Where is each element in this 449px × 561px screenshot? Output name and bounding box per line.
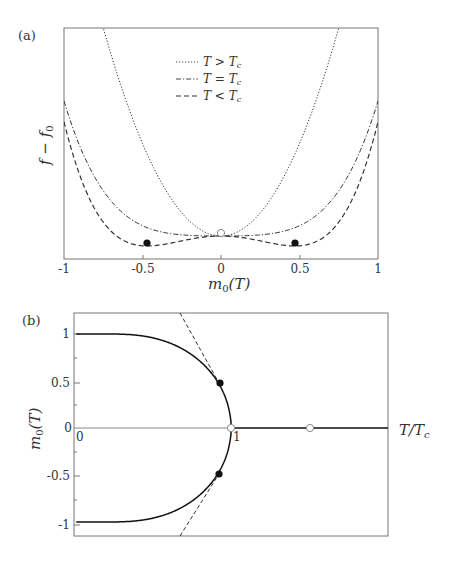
panel-a-legend: T > Tc T = Tc T < Tc: [176, 55, 242, 104]
panel-a-x-tick-labels: -1 -0.5 0 0.5 1: [58, 262, 382, 276]
figure: (a) -1 -0.5 0 0.5 1 m0(T) f − f0: [0, 0, 449, 561]
y-tick-label: 0.5: [51, 376, 70, 390]
x-tick-label: -1: [58, 262, 70, 276]
critical-point-marker: [227, 424, 234, 431]
x-tick-label-0: 0: [76, 430, 84, 444]
x-tick-label-1: 1: [233, 430, 241, 444]
tangent-line-upper: [180, 313, 219, 383]
x-tick-label: 0.5: [290, 262, 309, 276]
curve-t-below-tc: [64, 122, 378, 246]
panel-a: (a) -1 -0.5 0 0.5 1 m0(T) f − f0: [18, 0, 382, 294]
magnetization-curve-upper: [76, 334, 231, 428]
panel-b-x-label: T/Tc: [399, 421, 430, 440]
magnetization-curve-lower: [76, 428, 231, 522]
y-tick-label: 0: [64, 421, 72, 435]
y-tick-label: -1: [58, 518, 70, 532]
panel-a-tag: (a): [18, 28, 36, 43]
panel-a-x-label: m0(T): [208, 275, 250, 294]
y-tick-label: 1: [62, 327, 70, 341]
tangent-point-lower: [215, 470, 222, 477]
panel-b-tag: (b): [22, 313, 40, 328]
minimum-marker-left: [143, 239, 150, 246]
panel-a-y-label: f − f0: [36, 125, 55, 166]
legend-label-t-below-tc: T < Tc: [203, 89, 242, 104]
high-temp-marker: [306, 424, 313, 431]
origin-marker-open: [217, 229, 224, 236]
panel-a-x-ticks: [143, 255, 300, 259]
curve-t-above-tc: [64, 0, 378, 236]
x-tick-label: 0: [217, 262, 225, 276]
tangent-point-upper: [216, 379, 223, 386]
y-tick-label: -0.5: [47, 469, 70, 483]
curve-t-equals-tc: [64, 101, 378, 236]
minimum-marker-right: [291, 239, 298, 246]
x-tick-label: -0.5: [131, 262, 154, 276]
panel-b: (b) 1 0.5 0 -0.5 -1 0 1 m0(T) T/Tc: [22, 313, 430, 536]
x-tick-label: 1: [374, 262, 382, 276]
panel-b-y-label: m0(T): [26, 408, 45, 450]
legend-label-t-above-tc: T > Tc: [203, 55, 242, 70]
legend-label-t-equals-tc: T = Tc: [203, 72, 242, 87]
panel-b-y-tick-labels: 1 0.5 0 -0.5 -1: [47, 327, 72, 532]
